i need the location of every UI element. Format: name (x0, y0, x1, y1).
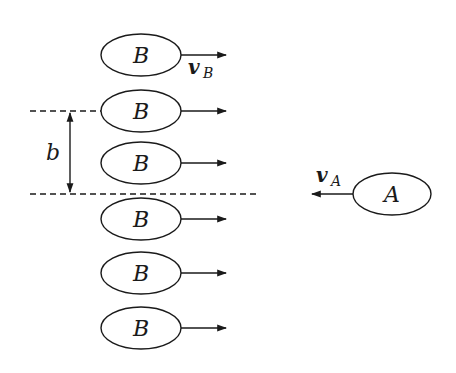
particle-b-5: B (101, 252, 226, 294)
particle-b-6: B (101, 307, 226, 349)
svg-text:v: v (316, 163, 328, 187)
velocity-label-a: v A (316, 163, 341, 189)
svg-text:A: A (329, 173, 341, 189)
svg-text:B: B (132, 99, 149, 124)
svg-text:B: B (202, 65, 213, 81)
impact-parameter-label: b (46, 140, 60, 165)
particle-b-2: B (101, 90, 226, 132)
svg-text:v: v (188, 55, 200, 79)
svg-text:B: B (132, 261, 149, 286)
svg-text:A: A (382, 182, 400, 207)
particle-b-4: B (101, 198, 226, 240)
particle-a: A (312, 173, 431, 215)
svg-text:B: B (132, 207, 149, 232)
svg-text:B: B (132, 43, 149, 68)
svg-text:B: B (132, 151, 149, 176)
particle-b-3: B (101, 142, 226, 184)
velocity-label-b: v B (188, 55, 213, 81)
svg-text:B: B (132, 316, 149, 341)
scattering-diagram: b B v B B B B B B A v (0, 0, 456, 373)
